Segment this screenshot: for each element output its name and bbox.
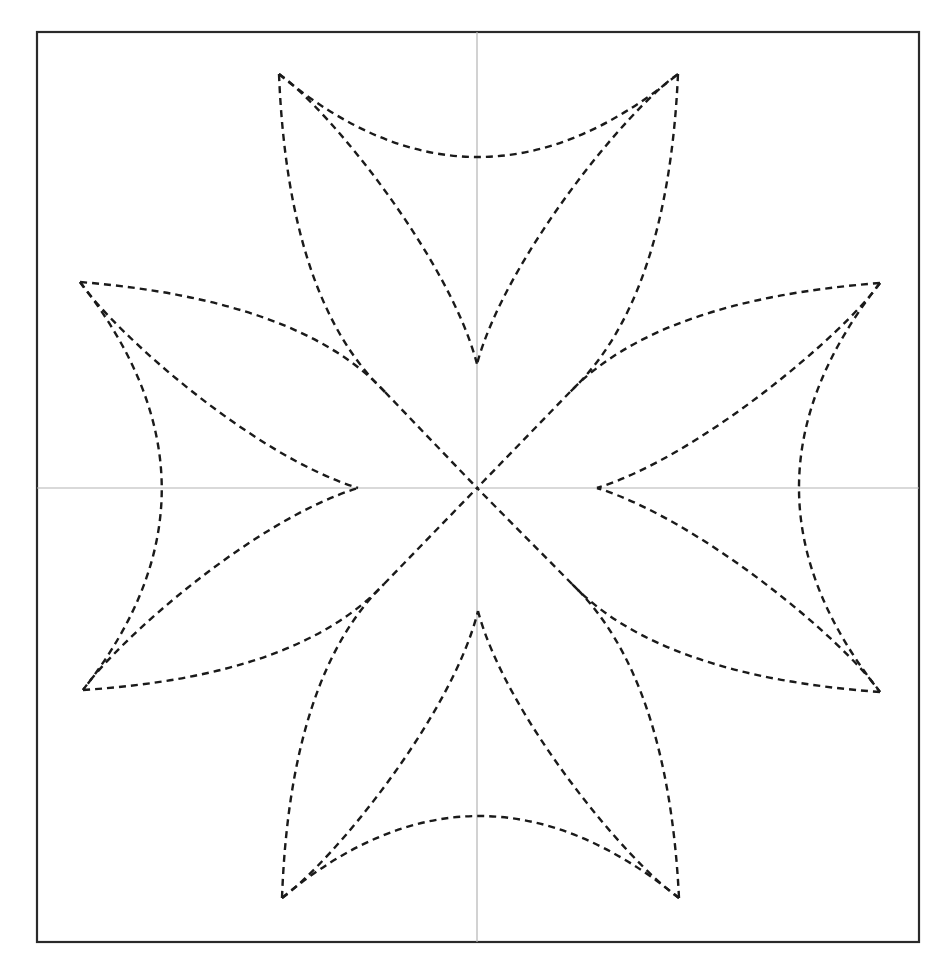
dashed-curve-figure [80, 74, 880, 898]
curve-bottom-inner-left [282, 611, 478, 898]
curve-top-arc [279, 74, 678, 157]
curve-bottom-left-lens-b [83, 584, 384, 690]
curve-bottom-inner-right [478, 611, 679, 898]
curve-bottom-left-lens-a [282, 584, 384, 898]
curve-top-left-lens-a [279, 74, 385, 392]
diagram-canvas [0, 0, 949, 979]
curve-top-right-lens-a [570, 74, 678, 392]
curve-top-inner-right [477, 74, 678, 364]
curve-diag-upper-right [477, 392, 570, 488]
curve-top-left-lens-b [80, 282, 385, 392]
curve-diag-lower-right [477, 488, 572, 584]
curve-top-inner-left [279, 74, 477, 364]
curve-bottom-arc [282, 816, 679, 898]
curve-right-inner-top [597, 283, 880, 488]
curve-bottom-right-lens-b [572, 584, 880, 692]
curve-left-inner-bottom [83, 488, 358, 690]
curve-right-inner-bottom [597, 488, 880, 692]
curve-bottom-right-lens-a [572, 584, 679, 898]
curve-left-inner-top [80, 282, 358, 488]
curve-top-right-lens-b [570, 283, 880, 392]
curve-left-arc [80, 282, 162, 690]
curve-diag-upper-left [385, 392, 477, 488]
curve-diag-lower-left [384, 488, 477, 584]
